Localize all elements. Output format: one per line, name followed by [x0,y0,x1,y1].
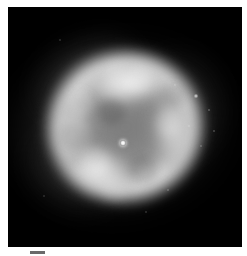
field-star [59,39,61,41]
central-star [120,140,126,146]
astronomical-image-panel [8,7,242,247]
caption-strip [0,247,247,256]
field-star [43,195,45,197]
field-star [188,125,190,127]
scale-bar [30,251,45,254]
field-star [194,94,197,97]
sky-background [8,7,242,247]
page-root [0,0,247,256]
